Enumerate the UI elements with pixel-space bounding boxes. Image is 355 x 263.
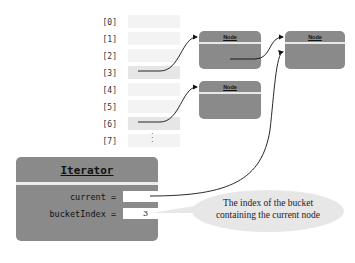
node-label: Node bbox=[199, 81, 261, 94]
bucket-index-5: [5] bbox=[91, 103, 117, 112]
continuation-ellipsis-icon: ··· bbox=[151, 132, 154, 144]
callout-line-2: containing the current node bbox=[192, 209, 344, 221]
current-field-label: current = bbox=[26, 192, 116, 202]
node-bucket3-second: Node bbox=[285, 31, 345, 69]
iterator-object: Iterator current = bucketIndex = 3 bbox=[16, 157, 158, 241]
bucket-cell-1 bbox=[128, 32, 180, 45]
node-bucket3-first: Node bbox=[199, 31, 261, 69]
bucket-cell-5 bbox=[128, 100, 180, 113]
node-label: Node bbox=[199, 31, 261, 44]
bucket-cell-3 bbox=[128, 66, 180, 79]
bucket-index-field-label: bucketIndex = bbox=[26, 209, 116, 219]
bucket-cell-2 bbox=[128, 49, 180, 62]
iterator-title: Iterator bbox=[16, 157, 158, 185]
bucket-index-4: [4] bbox=[91, 86, 117, 95]
bucket-cell-7 bbox=[128, 134, 180, 147]
current-field-value bbox=[123, 191, 158, 202]
bucket-index-7: [7] bbox=[91, 137, 117, 146]
callout-text: The index of the bucket containing the c… bbox=[192, 197, 344, 221]
node-label: Node bbox=[285, 31, 345, 44]
bucket-index-0: [0] bbox=[91, 18, 117, 27]
bucket-cell-6 bbox=[128, 117, 180, 130]
node-bucket6: Node bbox=[199, 81, 261, 119]
callout-line-1: The index of the bucket bbox=[192, 197, 344, 209]
bucket-index-3: [3] bbox=[91, 69, 117, 78]
bucket-cell-0 bbox=[128, 15, 180, 28]
iterator-title-text: Iterator bbox=[61, 164, 114, 177]
bucket-index-1: [1] bbox=[91, 35, 117, 44]
bucket-index-6: [6] bbox=[91, 120, 117, 129]
bucket-cell-4 bbox=[128, 83, 180, 96]
bucket-index-field-value: 3 bbox=[123, 208, 158, 219]
bucket-index-2: [2] bbox=[91, 52, 117, 61]
